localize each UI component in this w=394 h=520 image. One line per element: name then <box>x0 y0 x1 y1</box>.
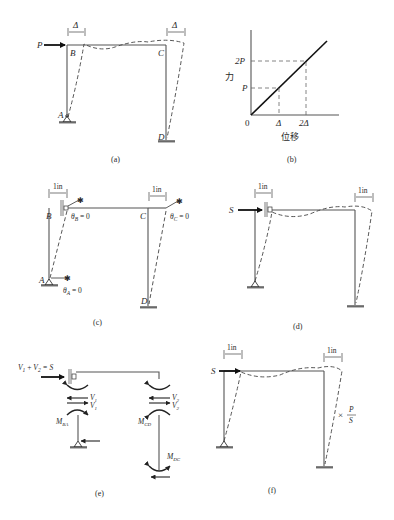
svg-text:Δ: Δ <box>72 20 78 30</box>
load-label-P: P <box>36 40 43 50</box>
caption-a: (a) <box>111 155 120 164</box>
displacement-dimension-right: 1in <box>355 186 373 202</box>
pin-support-icon <box>247 281 264 289</box>
load-label-S: S <box>211 366 216 376</box>
deflected-column-AB <box>50 211 67 278</box>
svg-text:✱: ✱ <box>77 196 84 205</box>
support-label-D: D <box>140 296 148 306</box>
svg-text:1in: 1in <box>358 186 368 195</box>
x-tick-delta: Δ <box>275 118 281 128</box>
caption-d: (d) <box>293 322 303 331</box>
force-displacement-line <box>251 41 327 115</box>
caption-b: (b) <box>287 155 297 164</box>
displacement-dimension-left: Δ <box>68 20 85 36</box>
load-label-S: S <box>229 205 234 215</box>
svg-text:S: S <box>349 416 353 425</box>
rotation-clamp-icon: ✱ <box>51 274 71 283</box>
x-axis-label: 位移 <box>281 131 299 142</box>
svg-text:1in: 1in <box>258 182 268 191</box>
displacement-dimension-left: 1in <box>49 182 67 198</box>
roller-clamp-icon <box>264 202 272 217</box>
moment-arrow-icon <box>67 410 88 415</box>
svg-text:✱: ✱ <box>176 197 183 206</box>
pin-support-icon <box>70 441 87 449</box>
joint-label-B: B <box>46 211 52 221</box>
joint-label-B: B <box>70 48 76 58</box>
joint-label-C: C <box>158 48 165 58</box>
panel-b-force-displacement-chart: P 2P 0 Δ 2Δ 力 位移 (b) <box>225 30 339 164</box>
support-label-A: A <box>57 110 64 120</box>
panel-a: P B C A D Δ Δ (a) <box>36 20 185 164</box>
fixed-support-icon <box>158 141 175 143</box>
moment-label-MDC: MDC <box>166 452 181 462</box>
svg-text:×: × <box>338 410 343 420</box>
svg-text:Δ: Δ <box>171 20 177 30</box>
displacement-dimension-right: 1in <box>324 346 342 362</box>
panel-c: ✱ ✱ ✱ B C A D θB = 0 θC = 0 θA = 0 <box>38 182 189 327</box>
moment-label-MBA: MBA <box>55 417 69 427</box>
fixed-support-icon <box>316 467 333 469</box>
svg-text:P: P <box>348 405 354 414</box>
joint-label-C: C <box>140 211 147 221</box>
displacement-dimension-left: 1in <box>224 343 242 359</box>
pin-support-icon <box>216 441 233 449</box>
fixed-support-icon <box>140 307 157 309</box>
theta-A-label: θA = 0 <box>63 286 82 296</box>
theta-B-label: θB = 0 <box>71 212 90 222</box>
theta-C-label: θC = 0 <box>170 212 189 222</box>
roller-clamp-icon <box>68 369 76 384</box>
moment-arrow-icon <box>67 385 88 390</box>
rotation-clamp-icon: ✱ <box>166 197 183 208</box>
total-shear-label: V1 + V2 = S <box>18 363 53 373</box>
y-tick-2P: 2P <box>235 56 246 66</box>
displacement-dimension-right: 1in <box>149 185 166 201</box>
fixed-support-icon <box>347 306 364 308</box>
displacement-dimension-right: Δ <box>167 20 185 36</box>
scale-factor-label: × P S <box>338 405 356 425</box>
svg-text:1in: 1in <box>227 343 237 352</box>
displacement-dimension-left: 1in <box>255 182 272 198</box>
panel-d: S 1in 1in (d) <box>229 182 373 331</box>
portal-frame-figure: P B C A D Δ Δ (a) <box>0 0 394 520</box>
support-label-A: A <box>38 275 45 285</box>
origin-label: 0 <box>245 118 250 128</box>
caption-f: (f) <box>268 486 276 495</box>
x-tick-2delta: 2Δ <box>299 118 309 128</box>
y-axis-label: 力 <box>225 71 234 82</box>
caption-e: (e) <box>95 489 104 498</box>
panel-e-free-body: V1 + V2 = S V1 V1 MBA V2 V2 MCD MDC <box>18 363 181 498</box>
beam-BC <box>76 372 159 379</box>
deflected-shape <box>68 40 184 138</box>
panel-f: S 1in 1in × P S (f) <box>211 343 356 495</box>
svg-text:1in: 1in <box>152 185 162 194</box>
svg-text:1in: 1in <box>53 182 63 191</box>
svg-text:1in: 1in <box>327 346 337 355</box>
moment-arrow-icon <box>149 410 170 415</box>
moment-label-MCD: MCD <box>137 417 152 427</box>
caption-c: (c) <box>93 318 102 327</box>
svg-text:✱: ✱ <box>64 274 71 283</box>
moment-arrow-icon <box>149 385 170 390</box>
y-tick-P: P <box>241 83 248 93</box>
deflected-column-CD <box>149 211 166 304</box>
